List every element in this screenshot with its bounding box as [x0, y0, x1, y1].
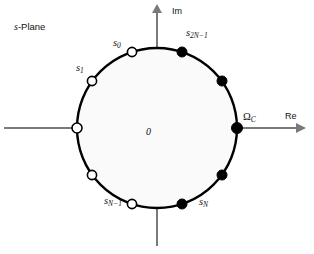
pole-marker-open-negative-real — [72, 123, 82, 133]
s-plane-caption-text: -Plane — [18, 21, 45, 32]
pole-marker-open-lower-left — [87, 170, 96, 179]
pole-marker-filled-upper-right — [217, 76, 227, 86]
s-plane-caption: s-Plane — [14, 22, 45, 32]
pole-label-sn: sN — [199, 197, 208, 209]
pole-label-s1-sub: 1 — [80, 66, 84, 75]
origin-label: 0 — [146, 127, 151, 137]
pole-marker-filled-s2n-1 — [177, 47, 187, 57]
pole-label-s1: s1 — [76, 63, 84, 75]
pole-label-sn-minus-1: sN−1 — [104, 196, 122, 208]
s-plane-figure: s-Plane Im Re 0 ΩC s0 s1 sN−1 sN s2N−1 — [0, 0, 314, 254]
imaginary-axis-arrow — [152, 4, 162, 13]
pole-label-sn-sub: N — [203, 200, 208, 209]
pole-marker-open-s1 — [87, 76, 96, 85]
pole-label-s0: s0 — [113, 38, 121, 50]
real-axis-label: Re — [285, 112, 297, 121]
real-axis-arrow — [296, 123, 306, 133]
pole-marker-filled-sn — [177, 199, 187, 209]
plot-canvas — [0, 0, 314, 254]
imaginary-axis-label: Im — [172, 7, 182, 16]
cutoff-subscript: C — [251, 115, 256, 124]
cutoff-omega-symbol: Ω — [243, 111, 251, 122]
cutoff-circle — [77, 48, 237, 208]
pole-label-s2n-minus-1: s2N−1 — [186, 28, 208, 40]
pole-marker-open-s0 — [127, 47, 136, 56]
pole-marker-filled-cutoff — [232, 123, 243, 134]
pole-label-s0-sub: 0 — [117, 41, 121, 50]
pole-label-s2n-minus-1-sub: 2N−1 — [190, 31, 208, 40]
pole-label-sn-minus-1-sub: N−1 — [108, 199, 122, 208]
cutoff-frequency-label: ΩC — [243, 112, 256, 123]
pole-marker-open-sn-1 — [127, 199, 136, 208]
pole-marker-filled-lower-right — [217, 170, 227, 180]
